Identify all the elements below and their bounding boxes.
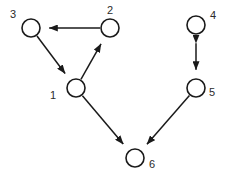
node-6 — [126, 149, 144, 167]
node-label-6: 6 — [149, 158, 155, 170]
node-4 — [187, 16, 205, 34]
edges-layer — [37, 28, 196, 144]
edge-5-to-6 — [147, 96, 189, 145]
node-label-3: 3 — [10, 8, 16, 20]
node-2 — [101, 19, 119, 37]
node-label-2: 2 — [107, 4, 113, 16]
graph-canvas: 123456 — [0, 0, 229, 179]
graph-diagram: 123456 — [0, 0, 229, 179]
node-5 — [187, 79, 205, 97]
node-1 — [67, 79, 85, 97]
node-3 — [22, 19, 40, 37]
edge-1-to-6 — [82, 96, 123, 144]
edge-3-to-1 — [37, 36, 65, 73]
node-label-1: 1 — [50, 89, 56, 101]
node-label-5: 5 — [209, 86, 215, 98]
node-label-4: 4 — [210, 9, 216, 21]
edge-1-to-2 — [81, 44, 101, 79]
